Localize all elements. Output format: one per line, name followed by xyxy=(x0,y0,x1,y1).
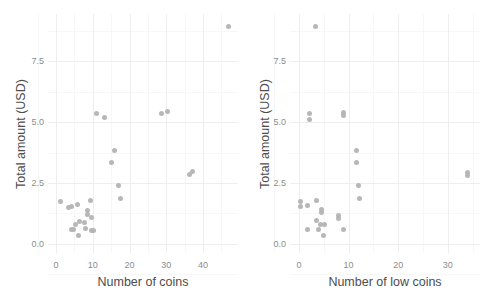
y-axis-title-left: Total amount (USD) xyxy=(14,79,28,189)
data-point xyxy=(82,220,87,225)
gridline-h-major xyxy=(48,61,238,62)
data-point xyxy=(357,196,362,201)
data-point xyxy=(66,205,71,210)
gridline-v-major xyxy=(166,14,167,253)
y-axis-title-right: Total amount (USD) xyxy=(258,79,272,189)
data-point xyxy=(305,227,310,232)
y-tick-label: 0.0 xyxy=(22,239,44,249)
gridline-h-major xyxy=(48,122,238,123)
x-tick-label: 40 xyxy=(198,260,208,270)
x-tick-label: 10 xyxy=(88,260,98,270)
gridline-h-major xyxy=(290,244,480,245)
y-tick-label: 7.5 xyxy=(264,56,286,66)
data-point xyxy=(354,148,359,153)
data-point xyxy=(226,24,231,29)
data-point xyxy=(58,199,63,204)
gridline-v-minor xyxy=(74,14,75,253)
gridline-h-major xyxy=(290,122,480,123)
data-point xyxy=(94,111,99,116)
gridline-v-major xyxy=(130,14,131,253)
x-tick-label: 30 xyxy=(161,260,171,270)
data-point xyxy=(465,173,470,178)
data-point xyxy=(76,233,81,238)
gridline-h-minor xyxy=(290,153,480,154)
gridline-v-major xyxy=(398,14,399,253)
x-tick-label: 0 xyxy=(296,260,301,270)
data-point xyxy=(165,109,170,114)
plot-area-right xyxy=(290,14,480,253)
panel-number-of-coins: 010203040 0.02.55.07.5 Number of coins T… xyxy=(0,0,244,301)
data-point xyxy=(319,210,324,215)
gridline-v-minor xyxy=(423,14,424,253)
y-tick-label: 0.0 xyxy=(264,239,286,249)
data-point xyxy=(109,160,114,165)
gridline-h-major xyxy=(48,183,238,184)
data-point xyxy=(322,222,327,227)
data-point xyxy=(314,198,319,203)
gridline-h-minor xyxy=(290,92,480,93)
x-axis-title-right: Number of low coins xyxy=(328,275,441,289)
y-tick-label: 7.5 xyxy=(22,56,44,66)
gridline-v-minor xyxy=(473,14,474,253)
data-point xyxy=(341,113,346,118)
data-point xyxy=(159,111,164,116)
data-point xyxy=(354,160,359,165)
gridline-h-major xyxy=(48,244,238,245)
data-point xyxy=(88,198,93,203)
x-tick-label: 0 xyxy=(54,260,59,270)
gridline-v-major xyxy=(56,14,57,253)
gridline-v-major xyxy=(203,14,204,253)
gridline-v-minor xyxy=(221,14,222,253)
gridline-v-minor xyxy=(148,14,149,253)
data-point xyxy=(356,183,361,188)
data-point xyxy=(118,196,123,201)
x-axis-title-left: Number of coins xyxy=(97,275,188,289)
gridline-h-minor xyxy=(290,31,480,32)
gridline-v-minor xyxy=(373,14,374,253)
gridline-h-minor xyxy=(48,153,238,154)
gridline-v-minor xyxy=(38,14,39,253)
data-point xyxy=(71,227,76,232)
gridline-v-major xyxy=(299,14,300,253)
gridline-h-major xyxy=(290,183,480,184)
data-point xyxy=(336,216,341,221)
gridline-h-major xyxy=(290,61,480,62)
scatter-plot-figure: 010203040 0.02.55.07.5 Number of coins T… xyxy=(0,0,488,301)
gridline-h-minor xyxy=(48,31,238,32)
gridline-h-minor xyxy=(48,92,238,93)
data-point xyxy=(298,204,303,209)
data-point xyxy=(116,183,121,188)
gridline-v-minor xyxy=(185,14,186,253)
data-point xyxy=(341,227,346,232)
data-point xyxy=(190,169,195,174)
data-point xyxy=(321,233,326,238)
gridline-v-minor xyxy=(324,14,325,253)
plot-area-left xyxy=(48,14,238,253)
gridline-v-major xyxy=(349,14,350,253)
x-tick-label: 30 xyxy=(443,260,453,270)
x-tick-label: 10 xyxy=(344,260,354,270)
gridline-v-major xyxy=(448,14,449,253)
data-point xyxy=(305,203,310,208)
data-point xyxy=(89,215,94,220)
data-point xyxy=(75,202,80,207)
gridline-v-minor xyxy=(111,14,112,253)
gridline-v-minor xyxy=(274,14,275,253)
data-point xyxy=(112,148,117,153)
x-tick-label: 20 xyxy=(393,260,403,270)
data-point xyxy=(91,228,96,233)
data-point xyxy=(316,227,321,232)
data-point xyxy=(102,115,107,120)
x-tick-label: 20 xyxy=(125,260,135,270)
data-point xyxy=(307,111,312,116)
data-point xyxy=(313,24,318,29)
gridline-h-minor xyxy=(48,213,238,214)
panel-number-of-low-coins: 0102030 0.02.55.07.5 Number of low coins… xyxy=(244,0,488,301)
data-point xyxy=(83,226,88,231)
